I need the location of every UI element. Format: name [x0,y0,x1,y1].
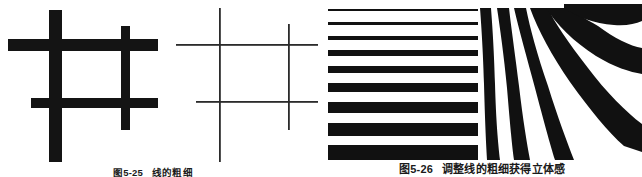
caption-number: 图5-26 [399,163,433,175]
horizontal-stripes-drawing [328,4,478,160]
grid-line-horizontal-2 [196,101,318,103]
stripe-1 [328,9,478,11]
grid-line-vertical-2 [121,26,130,130]
grid-line-vertical-1 [49,10,62,162]
figure-thin-grid [176,0,326,170]
caption-text: 线的粗细 [152,167,193,177]
panel-background [176,0,326,170]
grid-line-horizontal-1 [8,39,158,51]
stripe-4 [328,50,478,56]
stripe-2 [328,22,478,25]
figure-page: 图5-25线的粗细 图5-26调整线的粗细获得立体感 [0,0,642,177]
grid-line-horizontal-1 [176,44,318,46]
stripe-8 [328,123,478,136]
curved-stripes-drawing [478,4,642,160]
figure-horizontal-stripes [328,4,478,160]
stripe-9 [328,145,478,160]
caption-text: 调整线的粗细获得立体感 [442,163,565,175]
stripe-3 [328,36,478,40]
figure-thick-grid [0,0,176,170]
caption-figure-5-25: 图5-25线的粗细 [113,167,193,177]
caption-figure-5-26: 图5-26调整线的粗细获得立体感 [399,162,565,176]
stripe-7 [328,102,478,113]
panel-background [0,0,176,170]
thin-grid-drawing [176,0,326,170]
grid-line-vertical-2 [288,24,290,130]
figure-curved-stripes [478,4,642,160]
grid-line-vertical-1 [219,8,221,162]
caption-number: 图5-25 [113,167,143,177]
stripe-6 [328,83,478,92]
thick-grid-drawing [0,0,176,170]
panel-background [328,4,478,160]
stripe-5 [328,66,478,73]
